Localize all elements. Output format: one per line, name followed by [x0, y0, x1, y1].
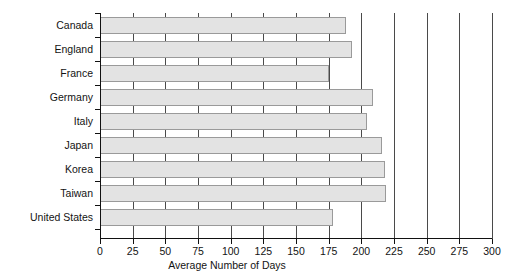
- x-axis-tick: [427, 239, 428, 244]
- x-axis-tick-label: 225: [385, 245, 403, 257]
- y-axis-tick: [95, 205, 101, 206]
- x-axis-tick: [361, 239, 362, 244]
- x-axis-tick: [492, 239, 493, 244]
- y-axis-tick: [95, 37, 101, 38]
- x-axis-tick: [329, 239, 330, 244]
- x-axis-tick: [263, 239, 264, 244]
- bar-series: [100, 13, 492, 239]
- y-axis-category-label: Canada: [0, 13, 93, 37]
- bar-row: [100, 133, 492, 157]
- x-axis-tick-label: 50: [159, 245, 171, 257]
- y-axis-category-label: United States: [0, 205, 93, 229]
- x-axis-tick-label: 275: [451, 245, 469, 257]
- x-axis-title-text: Average Number of Days: [168, 259, 286, 271]
- y-axis-category-labels: CanadaEnglandFranceGermanyItalyJapanKore…: [0, 13, 93, 229]
- y-axis-tick: [95, 229, 101, 230]
- y-axis-category-label: Germany: [0, 85, 93, 109]
- bar-row: [100, 157, 492, 181]
- x-axis-tick-label: 250: [418, 245, 436, 257]
- bar: [100, 17, 346, 34]
- x-axis-tick-label: 200: [353, 245, 371, 257]
- bar: [100, 113, 367, 130]
- bar-row: [100, 13, 492, 37]
- x-axis-tick: [296, 239, 297, 244]
- x-axis-tick-label: 0: [97, 245, 103, 257]
- y-axis-category-label: Italy: [0, 109, 93, 133]
- gridline: [492, 13, 493, 239]
- bar-row: [100, 37, 492, 61]
- x-axis-title: Average Number of Days: [0, 259, 518, 271]
- x-axis-tick-label: 175: [320, 245, 338, 257]
- bar-row: [100, 85, 492, 109]
- bar-row: [100, 61, 492, 85]
- x-axis-tick-labels: 0255075100125150175200225250275300: [0, 245, 518, 259]
- x-axis-tick-label: 150: [287, 245, 305, 257]
- y-axis-tick: [95, 85, 101, 86]
- y-axis-tick: [95, 181, 101, 182]
- y-axis-category-label: Korea: [0, 157, 93, 181]
- y-axis-category-label: France: [0, 61, 93, 85]
- bar: [100, 161, 385, 178]
- y-axis-tick: [95, 133, 101, 134]
- bar: [100, 41, 352, 58]
- x-axis-tick: [459, 239, 460, 244]
- y-axis-tick: [95, 157, 101, 158]
- plot-area: [100, 13, 492, 239]
- x-axis-tick: [394, 239, 395, 244]
- bar-row: [100, 109, 492, 133]
- y-axis-category-label: England: [0, 37, 93, 61]
- x-axis-tick-label: 300: [483, 245, 501, 257]
- y-axis-category-label: Taiwan: [0, 181, 93, 205]
- y-axis-tick: [95, 13, 101, 14]
- x-axis-tick-label: 100: [222, 245, 240, 257]
- x-axis-tick-label: 25: [127, 245, 139, 257]
- x-axis-tick: [165, 239, 166, 244]
- bar-chart: CanadaEnglandFranceGermanyItalyJapanKore…: [0, 0, 518, 277]
- bar: [100, 65, 329, 82]
- bar-row: [100, 181, 492, 205]
- y-axis-category-label: Japan: [0, 133, 93, 157]
- x-axis-tick-label: 125: [255, 245, 273, 257]
- bar: [100, 137, 382, 154]
- bar: [100, 185, 386, 202]
- bar: [100, 89, 373, 106]
- x-axis-tick: [231, 239, 232, 244]
- x-axis-tick: [133, 239, 134, 244]
- x-axis-tick: [100, 239, 101, 244]
- bar: [100, 209, 333, 226]
- x-axis-tick: [198, 239, 199, 244]
- y-axis-tick: [95, 61, 101, 62]
- y-axis-tick: [95, 109, 101, 110]
- bar-row: [100, 205, 492, 229]
- x-axis-tick-label: 75: [192, 245, 204, 257]
